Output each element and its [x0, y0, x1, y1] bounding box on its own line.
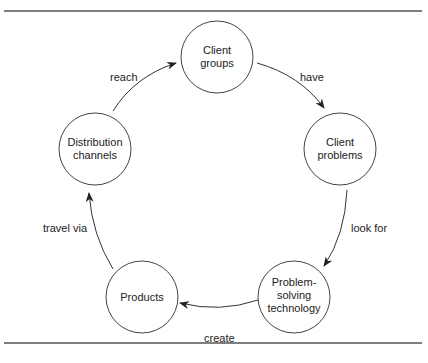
edge-label: have [300, 71, 324, 83]
cycle-diagram: Client groups Client problems Problem- s… [0, 0, 428, 363]
node-label: Client [203, 44, 231, 56]
edge-label: look for [351, 222, 387, 234]
node-client-problems: Client problems [304, 113, 376, 185]
edge-reach: reach [110, 63, 176, 111]
edge-travel-via: travel via [43, 193, 113, 269]
node-client-groups: Client groups [181, 21, 253, 93]
node-label: Products [120, 291, 164, 303]
node-label: solving [277, 289, 311, 301]
node-label: channels [73, 149, 118, 161]
node-products: Products [106, 261, 178, 333]
node-label: Client [326, 136, 354, 148]
node-label: technology [267, 302, 321, 314]
edge-have: have [257, 63, 324, 108]
edge-label: create [204, 332, 235, 344]
node-label: problems [317, 149, 363, 161]
node-distribution-channels: Distribution channels [59, 113, 131, 185]
edge-label: travel via [43, 222, 88, 234]
edge-label: reach [110, 71, 138, 83]
node-label: Problem- [272, 276, 317, 288]
edge-create: create [180, 300, 258, 344]
node-problem-solving-technology: Problem- solving technology [258, 261, 330, 333]
node-label: Distribution [67, 136, 122, 148]
node-label: groups [200, 57, 234, 69]
edge-look-for: look for [324, 190, 387, 266]
